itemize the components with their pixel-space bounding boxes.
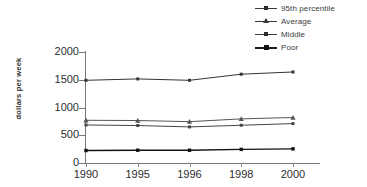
legend-item-average[interactable]: Average xyxy=(255,15,367,28)
data-point-marker xyxy=(188,79,191,82)
data-point-marker xyxy=(85,123,88,126)
legend-item-label: Average xyxy=(281,16,311,27)
y-axis-tick-label: 1500 xyxy=(39,73,79,85)
legend-item-middle[interactable]: Middle xyxy=(255,28,367,41)
legend-item-95th-percentile[interactable]: 95th percentile xyxy=(255,2,367,15)
plot-area xyxy=(86,52,293,163)
series-layer xyxy=(86,52,293,163)
data-point-marker xyxy=(188,125,191,128)
data-point-marker xyxy=(136,149,139,152)
y-axis-tick xyxy=(79,80,85,81)
legend-item-label: 95th percentile xyxy=(281,3,335,14)
data-point-marker xyxy=(136,124,139,127)
data-point-marker xyxy=(240,124,243,127)
data-point-marker xyxy=(188,149,191,152)
x-axis-tick-label: 2000 xyxy=(271,168,315,180)
x-axis-tick-label: 1990 xyxy=(64,168,108,180)
y-axis-tick-label: 500 xyxy=(39,128,79,140)
x-axis-tick xyxy=(293,163,294,167)
y-axis-title: dollars per week xyxy=(14,55,23,123)
x-axis-line xyxy=(85,163,320,164)
y-axis-tick xyxy=(79,52,85,53)
x-axis-tick xyxy=(138,163,139,167)
data-point-marker xyxy=(85,79,88,82)
chart-figure: 95th percentile Average Middle Poor doll… xyxy=(0,0,367,187)
x-axis-tick xyxy=(241,163,242,167)
data-point-marker xyxy=(136,77,139,80)
y-axis-tick-label: 0 xyxy=(39,156,79,168)
x-axis-tick xyxy=(190,163,191,167)
x-axis-tick-label: 1998 xyxy=(219,168,263,180)
data-point-marker xyxy=(292,70,295,73)
x-axis-tick-label: 1995 xyxy=(116,168,160,180)
x-axis-tick xyxy=(86,163,87,167)
y-axis-tick-label: 1000 xyxy=(39,101,79,113)
data-point-marker xyxy=(240,73,243,76)
y-axis-tick xyxy=(79,163,85,164)
legend-item-label: Middle xyxy=(281,29,305,40)
y-axis-tick-label: 2000 xyxy=(39,45,79,57)
legend-marker-icon xyxy=(255,16,277,27)
legend-marker-icon xyxy=(255,29,277,40)
legend-marker-icon xyxy=(255,3,277,14)
data-point-marker xyxy=(84,149,87,152)
y-axis-tick xyxy=(79,108,85,109)
chart-legend: 95th percentile Average Middle Poor xyxy=(255,2,367,54)
data-point-marker xyxy=(292,122,295,125)
y-axis-tick xyxy=(79,135,85,136)
x-axis-tick-label: 1996 xyxy=(168,168,212,180)
data-point-marker xyxy=(291,147,294,150)
data-point-marker xyxy=(240,148,243,151)
